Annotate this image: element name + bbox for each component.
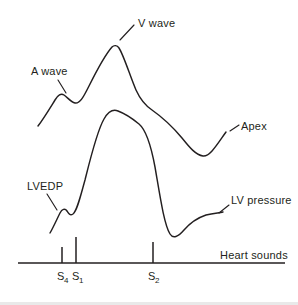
heart-sound-subscript-s2: 2 — [155, 276, 160, 285]
v-wave-label: V wave — [138, 17, 175, 29]
a-wave-label: A wave — [31, 65, 68, 77]
heart-sounds-label: Heart sounds — [220, 249, 288, 261]
apex-label: Apex — [241, 120, 267, 132]
figure-root: A wave V wave Apex LVEDP LV pressure S 4… — [0, 0, 298, 305]
heart-sound-subscript-s1: 1 — [79, 276, 84, 285]
apex-cardiogram-diagram: A wave V wave Apex LVEDP LV pressure S 4… — [0, 0, 298, 305]
heart-sound-subscript-s4: 4 — [64, 276, 69, 285]
lvedp-label: LVEDP — [27, 180, 63, 192]
lv-pressure-label: LV pressure — [231, 194, 292, 206]
